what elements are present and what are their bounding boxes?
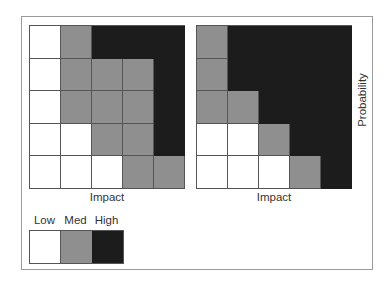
- matrix-cell-r5-c5: [154, 156, 185, 189]
- legend-label-low: Low: [29, 214, 60, 226]
- matrix-cell-r2-c5: [154, 59, 185, 92]
- matrix-cell-r4-c5: [321, 124, 352, 157]
- matrix-cell-r2-c2: [228, 59, 259, 92]
- matrix-cell-r2-c3: [92, 59, 123, 92]
- legend-labels: Low Med High: [29, 214, 124, 226]
- matrix-cell-r5-c4: [123, 156, 154, 189]
- matrix-cell-r4-c1: [197, 124, 228, 157]
- legend-label-med: Med: [60, 214, 91, 226]
- matrix-cell-r2-c4: [123, 59, 154, 92]
- matrix-cell-r5-c2: [228, 156, 259, 189]
- left-risk-matrix: [29, 25, 185, 189]
- matrix-cell-r3-c4: [123, 91, 154, 124]
- matrix-cell-r5-c1: [197, 156, 228, 189]
- matrix-cell-r5-c1: [30, 156, 61, 189]
- right-x-axis-label: Impact: [196, 191, 352, 203]
- matrix-cell-r1-c4: [123, 26, 154, 59]
- right-risk-matrix: [196, 25, 352, 189]
- matrix-cell-r3-c5: [321, 91, 352, 124]
- matrix-cell-r1-c1: [30, 26, 61, 59]
- matrix-cell-r4-c5: [154, 124, 185, 157]
- matrix-cell-r1-c5: [154, 26, 185, 59]
- matrix-cell-r2-c4: [290, 59, 321, 92]
- legend-swatch-high: [92, 231, 123, 263]
- matrix-cell-r2-c1: [30, 59, 61, 92]
- matrix-cell-r3-c1: [30, 91, 61, 124]
- matrix-cell-r4-c3: [92, 124, 123, 157]
- matrix-cell-r2-c3: [259, 59, 290, 92]
- matrix-cell-r2-c5: [321, 59, 352, 92]
- matrix-cell-r3-c2: [61, 91, 92, 124]
- matrix-cell-r1-c2: [228, 26, 259, 59]
- matrix-cell-r5-c3: [92, 156, 123, 189]
- legend-swatch-low: [30, 231, 61, 263]
- right-y-axis-label: Probability: [356, 68, 368, 132]
- matrix-cell-r4-c4: [123, 124, 154, 157]
- matrix-cell-r3-c2: [228, 91, 259, 124]
- matrix-cell-r1-c1: [197, 26, 228, 59]
- matrix-cell-r5-c2: [61, 156, 92, 189]
- legend: Low Med High: [29, 214, 124, 264]
- legend-label-high: High: [91, 214, 122, 226]
- matrix-cell-r1-c2: [61, 26, 92, 59]
- matrix-cell-r4-c2: [228, 124, 259, 157]
- matrix-cell-r5-c4: [290, 156, 321, 189]
- matrix-cell-r1-c3: [92, 26, 123, 59]
- matrix-cell-r3-c3: [259, 91, 290, 124]
- matrix-cell-r3-c3: [92, 91, 123, 124]
- matrix-cell-r3-c4: [290, 91, 321, 124]
- matrix-cell-r3-c1: [197, 91, 228, 124]
- legend-swatches: [29, 230, 124, 264]
- legend-swatch-med: [61, 231, 92, 263]
- matrix-cell-r4-c4: [290, 124, 321, 157]
- matrix-cell-r4-c1: [30, 124, 61, 157]
- matrix-cell-r4-c2: [61, 124, 92, 157]
- matrix-cell-r5-c5: [321, 156, 352, 189]
- matrix-cell-r4-c3: [259, 124, 290, 157]
- matrix-cell-r1-c4: [290, 26, 321, 59]
- matrix-cell-r3-c5: [154, 91, 185, 124]
- matrix-cell-r1-c5: [321, 26, 352, 59]
- left-x-axis-label: Impact: [29, 191, 185, 203]
- matrix-cell-r2-c2: [61, 59, 92, 92]
- matrix-cell-r2-c1: [197, 59, 228, 92]
- matrix-cell-r1-c3: [259, 26, 290, 59]
- matrix-cell-r5-c3: [259, 156, 290, 189]
